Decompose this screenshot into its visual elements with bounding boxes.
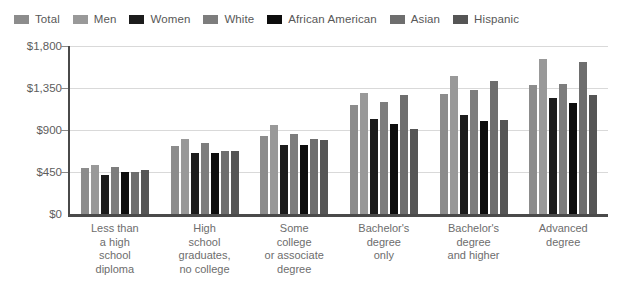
legend-label: Total [35, 13, 60, 25]
category-label-line: degree [431, 236, 517, 250]
bar [500, 120, 508, 214]
category-label-line: no college [162, 263, 248, 277]
legend-label: Women [150, 13, 190, 25]
bar [81, 168, 89, 214]
bar [450, 76, 458, 214]
bar [360, 93, 368, 214]
bar [201, 143, 209, 214]
bar [211, 153, 219, 214]
bar [559, 84, 567, 214]
chart-legend: TotalMenWomenWhiteAfrican AmericanAsianH… [0, 8, 618, 30]
bar [141, 170, 149, 214]
bar [480, 121, 488, 214]
bar [350, 105, 358, 214]
legend-swatch-icon [203, 15, 218, 24]
legend-item[interactable]: Hispanic [453, 13, 519, 25]
legend-swatch-icon [453, 15, 468, 24]
category-label: Bachelor'sdegreeonly [339, 222, 429, 294]
x-axis-category-labels: Less thana highschooldiplomaHighschoolgr… [70, 222, 608, 294]
y-axis-tick-label: $1,800 [27, 40, 62, 52]
bar-group [339, 46, 429, 214]
legend-swatch-icon [129, 15, 144, 24]
legend-swatch-icon [390, 15, 405, 24]
legend-swatch-icon [14, 15, 29, 24]
bar [121, 172, 129, 214]
legend-label: Hispanic [474, 13, 519, 25]
category-label-line: degree [520, 236, 606, 250]
bar [260, 136, 268, 214]
category-label-line: school [162, 236, 248, 250]
bar [181, 139, 189, 214]
category-label-line: Bachelor's [431, 222, 517, 236]
y-axis-labels: $0$450$900$1,350$1,800 [6, 46, 62, 216]
bar-group [160, 46, 250, 214]
category-label-line: Some [251, 222, 337, 236]
legend-item[interactable]: Asian [390, 13, 440, 25]
legend-swatch-icon [267, 15, 282, 24]
legend-item[interactable]: Women [129, 13, 190, 25]
category-label-line: Bachelor's [341, 222, 427, 236]
bar [310, 139, 318, 214]
category-label-line: only [341, 249, 427, 263]
bar [589, 95, 597, 214]
bar-groups [70, 46, 608, 214]
bar [101, 175, 109, 214]
legend-item[interactable]: White [203, 13, 254, 25]
category-label: Somecollegeor associatedegree [249, 222, 339, 294]
category-label-line: diploma [72, 263, 158, 277]
y-axis-tick [61, 172, 68, 173]
category-label-line: graduates, [162, 249, 248, 263]
bar [270, 125, 278, 214]
bar [579, 62, 587, 214]
category-label: Less thana highschooldiploma [70, 222, 160, 294]
y-axis-tick-label: $0 [49, 208, 62, 220]
legend-label: Men [94, 13, 117, 25]
legend-item[interactable]: Total [14, 13, 60, 25]
category-label-line: degree [251, 263, 337, 277]
bar-group [70, 46, 160, 214]
bar [440, 94, 448, 214]
bar [529, 85, 537, 214]
bar [231, 151, 239, 214]
category-label: Bachelor'sdegreeand higher [429, 222, 519, 294]
bar [410, 129, 418, 214]
x-axis-line [68, 214, 608, 217]
bar [460, 115, 468, 214]
legend-label: White [224, 13, 254, 25]
legend-swatch-icon [73, 15, 88, 24]
category-label-line: Less than [72, 222, 158, 236]
bar [569, 103, 577, 214]
bar [171, 146, 179, 214]
bar [539, 59, 547, 214]
bar-group [518, 46, 608, 214]
legend-item[interactable]: Men [73, 13, 117, 25]
bar [380, 102, 388, 214]
bar [549, 98, 557, 214]
y-axis-tick [61, 88, 68, 89]
category-label-line: a high [72, 236, 158, 250]
category-label: Highschoolgraduates,no college [160, 222, 250, 294]
plot-area: $0$450$900$1,350$1,800 [68, 46, 608, 216]
bar [490, 81, 498, 214]
bar [470, 90, 478, 214]
category-label-line: and higher [431, 249, 517, 263]
y-axis-tick [61, 130, 68, 131]
category-label-line: Advanced [520, 222, 606, 236]
bar-group [249, 46, 339, 214]
bar [91, 165, 99, 214]
y-axis-tick-label: $900 [36, 124, 62, 136]
category-label-line: school [72, 249, 158, 263]
bar [370, 119, 378, 214]
bar [300, 145, 308, 214]
bar [191, 153, 199, 214]
category-label-line: college [251, 236, 337, 250]
bar [390, 124, 398, 214]
bar-group [429, 46, 519, 214]
bar [131, 172, 139, 214]
legend-label: Asian [411, 13, 440, 25]
bar [111, 167, 119, 214]
legend-item[interactable]: African American [267, 13, 377, 25]
category-label-line: High [162, 222, 248, 236]
category-label: Advanceddegree [518, 222, 608, 294]
category-label-line: or associate [251, 249, 337, 263]
